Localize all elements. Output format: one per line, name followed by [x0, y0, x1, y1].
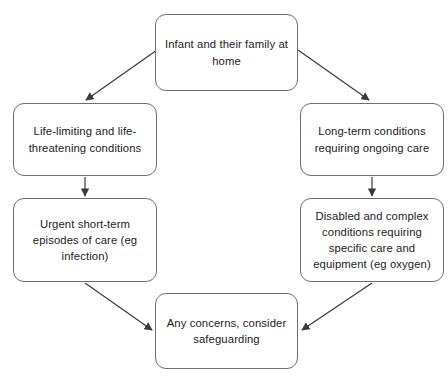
node-label: Disabled and complex conditions requirin…: [308, 208, 436, 272]
node-long-term-conditions[interactable]: Long-term conditions requiring ongoing c…: [300, 103, 444, 176]
node-disabled-and-complex-conditions[interactable]: Disabled and complex conditions requirin…: [300, 198, 444, 282]
node-label: Life-limiting and life- threatening cond…: [21, 123, 149, 155]
edge-top-to-right-1: [298, 50, 369, 100]
node-label: Long-term conditions requiring ongoing c…: [308, 123, 436, 155]
node-label: Any concerns, consider safeguarding: [163, 315, 290, 347]
edge-top-to-left-1: [86, 50, 157, 100]
node-life-limiting-conditions[interactable]: Life-limiting and life- threatening cond…: [13, 103, 157, 176]
edge-left-2-to-bottom: [85, 283, 152, 330]
node-label: Urgent short-term episodes of care (eg i…: [21, 216, 149, 264]
node-label: Infant and their family at home: [163, 36, 290, 68]
flowchart-diagram: Infant and their family at home Life-lim…: [0, 0, 448, 379]
node-urgent-short-term-episodes[interactable]: Urgent short-term episodes of care (eg i…: [13, 198, 157, 282]
node-infant-and-family-at-home[interactable]: Infant and their family at home: [155, 14, 298, 91]
edge-right-2-to-bottom: [302, 283, 372, 330]
node-any-concerns-safeguarding[interactable]: Any concerns, consider safeguarding: [155, 293, 298, 369]
